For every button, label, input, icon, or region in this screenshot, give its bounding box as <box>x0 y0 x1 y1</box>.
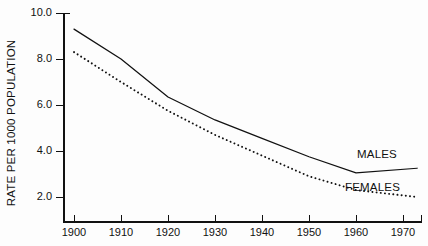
chart-figure: RATE PER 1000 POPULATION 2.04.06.08.010.… <box>0 0 428 246</box>
series-label-females: FEMALES <box>345 181 400 193</box>
plot-area <box>0 0 428 246</box>
series-label-males: MALES <box>357 148 397 160</box>
series-line-females <box>74 52 417 197</box>
